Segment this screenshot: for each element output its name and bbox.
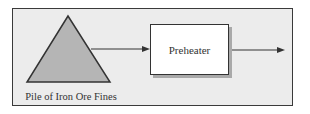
preheater-box: Preheater (150, 24, 229, 75)
arrowhead-icon (142, 46, 150, 52)
preheater-label: Preheater (169, 44, 211, 56)
arrowhead-icon (277, 47, 285, 53)
pile-label: Pile of Iron Ore Fines (16, 91, 126, 102)
